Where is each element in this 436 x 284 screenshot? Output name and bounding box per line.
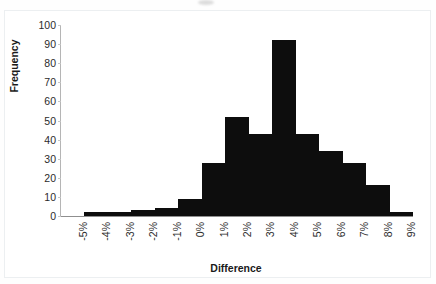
x-tick-cell: 5% (295, 220, 318, 264)
x-tick-cell: 0% (177, 220, 200, 264)
y-tick-label: 80 (22, 57, 56, 69)
bar (319, 151, 342, 216)
bar-series (61, 25, 413, 216)
x-axis-ticks: -5%-4%-3%-2%-1%0%1%2%3%4%5%6%7%8%9% (60, 220, 412, 264)
x-axis-title: Difference (60, 262, 412, 274)
x-tick-cell: -4% (83, 220, 106, 264)
x-tick-cell: -3% (107, 220, 130, 264)
bar (249, 134, 272, 216)
x-tick-label: 9% (405, 222, 417, 237)
bar (108, 212, 131, 216)
y-tick-label: 20 (22, 172, 56, 184)
x-tick-cell: 1% (201, 220, 224, 264)
x-tick-cell: -2% (130, 220, 153, 264)
x-tick-cell: 6% (318, 220, 341, 264)
bar (131, 210, 154, 216)
bar (225, 117, 248, 216)
bar (178, 199, 201, 216)
y-tick-label: 10 (22, 191, 56, 203)
bar (84, 212, 107, 216)
x-tick-cell: 8% (365, 220, 388, 264)
y-axis-title: Frequency (8, 16, 20, 116)
bar (343, 163, 366, 216)
x-tick-cell: 4% (271, 220, 294, 264)
y-tick-label: 0 (22, 210, 56, 222)
bar (390, 212, 413, 216)
y-tick-label: 40 (22, 134, 56, 146)
y-tick-label: 100 (22, 19, 56, 31)
y-tick-label: 90 (22, 38, 56, 50)
y-tick-label: 30 (22, 153, 56, 165)
y-tick-label: 70 (22, 76, 56, 88)
bar (366, 185, 389, 216)
histogram-figure: Frequency 0102030405060708090100 -5%-4%-… (0, 0, 436, 284)
y-tick-label: 50 (22, 115, 56, 127)
plot-area: 0102030405060708090100 (60, 25, 413, 217)
y-tick-label: 60 (22, 95, 56, 107)
y-tick-mark (58, 216, 61, 217)
x-tick-cell: -1% (154, 220, 177, 264)
x-tick-cell: 3% (248, 220, 271, 264)
scan-artifact (198, 0, 214, 5)
bar (272, 40, 295, 216)
x-tick-cell: 9% (389, 220, 412, 264)
bar (202, 163, 225, 216)
x-tick-cell: 2% (224, 220, 247, 264)
bar (155, 208, 178, 216)
x-tick-cell: -5% (60, 220, 83, 264)
bar (296, 134, 319, 216)
x-tick-cell: 7% (342, 220, 365, 264)
